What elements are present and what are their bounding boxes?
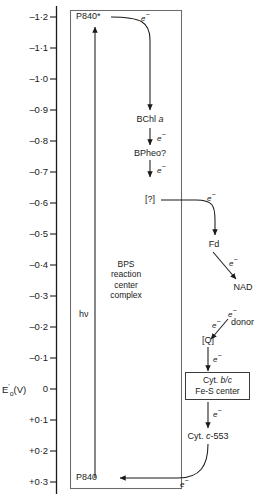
node-quinone: [Q] [202,336,214,345]
electron-label-10: e− [180,477,189,489]
diagram-canvas: –1·2 –1·1 –1·0 –0·9 –0·8 –0·7 –0·6 –0·5 … [0,0,263,500]
axis-tick-label: +0·2 [8,446,48,456]
node-bpheo: BPheo? [134,149,166,158]
electron-label-7: e− [212,318,221,330]
axis-tick-label: –1·1 [8,43,48,53]
axis-tick-label: –0·3 [8,291,48,301]
electron-charge: − [184,477,188,484]
node-bchl-a: BChl a [136,115,163,124]
label-photon-hv: hν [79,310,89,319]
cyt-bc-italic: b/c [221,375,232,385]
axis-tick-label: +0·1 [8,415,48,425]
axis-title-prime: ' [8,383,9,390]
rc-line-1: BPS [110,259,142,269]
electron-label-8: e− [213,352,222,364]
axis-tick-label: –0·4 [8,260,48,270]
axis-tick-label: –0·7 [8,167,48,177]
electron-charge: − [216,318,220,325]
cyt-bc-line: Cyt. b/c [190,375,245,386]
electron-charge: − [161,163,165,170]
electron-label-9: e− [213,407,222,419]
node-unknown-acceptor: [?] [145,195,155,204]
node-bchl-italic: a [159,114,164,124]
electron-charge: − [217,407,221,414]
electron-charge: − [233,256,237,263]
electron-charge: − [161,131,165,138]
electron-label-4: e− [207,191,216,203]
electron-charge: − [145,11,149,18]
cyt-bc-prefix: Cyt. [203,375,220,385]
axis-tick-label: +0·3 [8,477,48,487]
electron-charge: − [232,307,236,314]
node-bchl-name: BChl [136,114,156,124]
rc-line-3: center [110,280,142,290]
rc-line-4: complex [110,290,142,300]
rc-line-2: reaction [110,269,142,279]
axis-tick-label: –0·8 [8,136,48,146]
axis-tick-label: –0·1 [8,353,48,363]
node-nad: NAD [233,283,252,292]
node-electron-donor: donor [231,318,254,327]
axis-title: E'o(V) [2,383,26,397]
node-cyt-bc-fes-box: Cyt. b/c Fe-S center [185,372,250,400]
node-p840-ground: P840 [76,473,97,482]
axis-title-unit: (V) [14,384,27,395]
electron-label-3: e− [157,163,166,175]
node-p840-excited: P840* [76,12,101,21]
axis-tick-label: –0·5 [8,229,48,239]
electron-charge: − [211,191,215,198]
node-cyt-c553: Cyt. c-553 [187,432,228,441]
electron-label-2: e− [157,131,166,143]
axis-tick-label: –1·0 [8,74,48,84]
axis-tick-label: –1·2 [8,12,48,22]
electron-label-6: e− [228,307,237,319]
cyt-c553-suffix: -553 [211,431,229,441]
electron-label-1: e− [141,11,150,23]
axis-tick-label: –0·6 [8,198,48,208]
electron-charge: − [217,352,221,359]
electron-label-5: e− [229,256,238,268]
cyt-c553-prefix: Cyt. [187,431,206,441]
node-fd: Fd [209,240,220,249]
cyt-fes-line: Fe-S center [190,386,245,397]
reaction-center-caption: BPS reaction center complex [110,259,142,300]
axis-tick-label: –0·9 [8,105,48,115]
axis-tick-label: –0·2 [8,322,48,332]
